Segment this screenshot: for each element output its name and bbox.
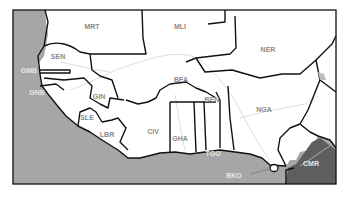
label-civ: CIV xyxy=(147,128,159,135)
label-bfa: BFA xyxy=(174,76,188,83)
label-ner: NER xyxy=(261,46,276,53)
label-sle: SLE xyxy=(80,114,94,121)
label-ben: BEN xyxy=(205,96,220,103)
label-mli: MLI xyxy=(174,23,186,30)
west-africa-map: MRT MLI NER SEN GMB GNB GIN SLE LBR CIV … xyxy=(0,0,350,197)
label-gmb: GMB xyxy=(21,67,37,74)
label-gnb: GNB xyxy=(29,89,45,96)
label-sen: SEN xyxy=(51,53,65,60)
label-gin: GIN xyxy=(93,93,105,100)
label-nga: NGA xyxy=(256,106,272,113)
label-mrt: MRT xyxy=(84,23,100,30)
label-bko: BKO xyxy=(226,172,242,179)
label-cmr: CMR xyxy=(303,160,319,167)
label-gha: GHA xyxy=(172,135,188,142)
label-tgo: TGO xyxy=(205,150,221,157)
bioko-island xyxy=(270,165,278,172)
label-lbr: LBR xyxy=(100,131,114,138)
